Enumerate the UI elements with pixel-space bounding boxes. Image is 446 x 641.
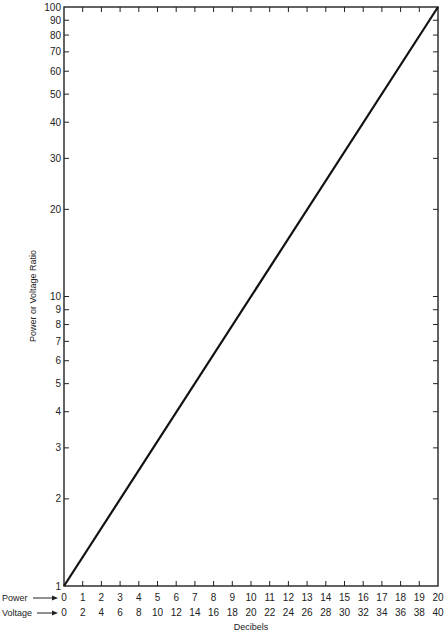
y-tick-label: 90 [50, 15, 62, 26]
voltage-db-tick-label: 30 [339, 607, 351, 618]
voltage-db-tick-label: 4 [99, 607, 105, 618]
power-db-tick-label: 13 [302, 592, 314, 603]
y-tick-label: 100 [44, 2, 61, 13]
power-db-tick-label: 20 [432, 592, 444, 603]
voltage-row-label: Voltage [2, 608, 32, 618]
power-db-tick-label: 10 [245, 592, 257, 603]
y-tick-label: 8 [55, 319, 61, 330]
power-db-tick-label: 15 [339, 592, 351, 603]
voltage-db-tick-label: 24 [283, 607, 295, 618]
voltage-db-tick-label: 18 [227, 607, 239, 618]
power-db-tick-label: 16 [358, 592, 370, 603]
power-db-tick-label: 0 [61, 592, 67, 603]
x-axis-label: Decibels [234, 622, 269, 632]
y-tick-label: 3 [55, 442, 61, 453]
power-db-tick-label: 7 [192, 592, 198, 603]
voltage-arrow-icon [37, 611, 58, 616]
voltage-db-tick-label: 8 [136, 607, 142, 618]
power-db-tick-label: 12 [283, 592, 295, 603]
power-db-tick-label: 14 [320, 592, 332, 603]
y-tick-label: 20 [50, 204, 62, 215]
power-arrow-icon [33, 596, 58, 601]
y-tick-label: 30 [50, 153, 62, 164]
y-tick-label: 70 [50, 46, 62, 57]
voltage-db-tick-label: 28 [320, 607, 332, 618]
data-series [64, 7, 438, 586]
voltage-db-tick-label: 40 [432, 607, 444, 618]
power-db-tick-label: 3 [117, 592, 123, 603]
y-tick-label: 2 [55, 493, 61, 504]
power-db-tick-label: 5 [155, 592, 161, 603]
voltage-db-tick-label: 22 [264, 607, 276, 618]
voltage-db-tick-label: 12 [171, 607, 183, 618]
y-tick-label: 60 [50, 66, 62, 77]
voltage-db-tick-label: 26 [302, 607, 314, 618]
power-db-tick-label: 2 [99, 592, 105, 603]
voltage-db-tick-label: 14 [189, 607, 201, 618]
ratio-line [64, 7, 438, 586]
y-tick-label: 10 [50, 291, 62, 302]
y-tick-label: 40 [50, 117, 62, 128]
power-db-tick-label: 6 [173, 592, 179, 603]
y-tick-label: 50 [50, 89, 62, 100]
voltage-db-tick-label: 36 [395, 607, 407, 618]
voltage-db-tick-label: 20 [245, 607, 257, 618]
y-tick-label: 80 [50, 30, 62, 41]
power-db-tick-label: 18 [395, 592, 407, 603]
power-db-tick-label: 1 [80, 592, 86, 603]
voltage-db-tick-label: 34 [376, 607, 388, 618]
y-axis-label: Power or Voltage Ratio [28, 250, 38, 342]
voltage-db-tick-label: 38 [414, 607, 426, 618]
decibel-ratio-chart: 123456789102030405060708090100 001224364… [0, 0, 446, 641]
power-db-tick-label: 9 [230, 592, 236, 603]
y-tick-label: 6 [55, 355, 61, 366]
y-tick-label: 4 [55, 406, 61, 417]
y-tick-label: 5 [55, 378, 61, 389]
voltage-db-tick-label: 32 [358, 607, 370, 618]
power-db-tick-label: 4 [136, 592, 142, 603]
voltage-db-tick-label: 16 [208, 607, 220, 618]
x-axis-ticks: 0012243648510612714816918102011221224132… [61, 7, 444, 618]
voltage-db-tick-label: 0 [61, 607, 67, 618]
voltage-db-tick-label: 10 [152, 607, 164, 618]
y-tick-label: 9 [55, 304, 61, 315]
power-db-tick-label: 8 [211, 592, 217, 603]
power-row-label: Power [2, 593, 28, 603]
voltage-db-tick-label: 6 [117, 607, 123, 618]
power-db-tick-label: 17 [376, 592, 388, 603]
power-db-tick-label: 11 [265, 592, 276, 603]
voltage-db-tick-label: 2 [80, 607, 86, 618]
y-tick-label: 1 [55, 581, 61, 592]
y-tick-label: 7 [55, 336, 61, 347]
power-db-tick-label: 19 [414, 592, 426, 603]
y-axis-ticks: 123456789102030405060708090100 [44, 2, 438, 592]
